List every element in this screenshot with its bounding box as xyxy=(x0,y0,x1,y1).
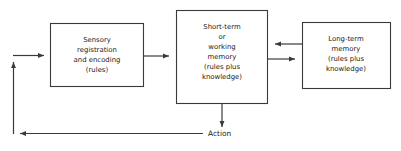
box-short-term-line-5: (rules plus xyxy=(204,63,240,71)
box-long-term-line-3: (rules plus xyxy=(328,55,364,63)
box-short-term-line-6: knowledge) xyxy=(202,73,242,81)
box-long-term-line-1: Long-term xyxy=(328,35,364,43)
box-sensory-line-2: registration xyxy=(77,46,117,54)
box-long-term-line-4: knowledge) xyxy=(326,65,366,73)
box-short-term-memory: Short-term or working memory (rules plus… xyxy=(177,11,268,104)
box-sensory-line-1: Sensory xyxy=(83,36,111,44)
box-sensory-line-3: and encoding xyxy=(74,56,121,64)
box-long-term-memory: Long-term memory (rules plus knowledge) xyxy=(303,23,391,89)
flow-diagram-svg: Sensory registration and encoding (rules… xyxy=(0,0,401,151)
box-short-term-line-4: memory xyxy=(208,53,237,61)
box-short-term-line-2: or xyxy=(218,33,225,41)
box-long-term-line-2: memory xyxy=(332,45,361,53)
box-short-term-line-1: Short-term xyxy=(203,23,241,31)
action-label: Action xyxy=(208,129,231,138)
box-sensory-registration: Sensory registration and encoding (rules… xyxy=(51,24,144,87)
information-processing-diagram: Sensory registration and encoding (rules… xyxy=(0,0,401,151)
box-short-term-line-3: working xyxy=(208,43,235,51)
box-sensory-line-4: (rules) xyxy=(86,66,109,74)
